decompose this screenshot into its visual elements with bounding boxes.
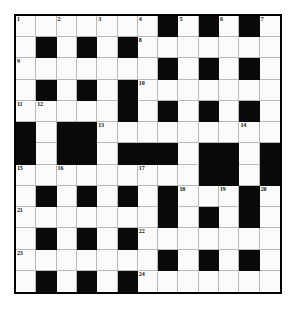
grid-letter-cell[interactable]: 22 <box>138 228 158 249</box>
grid-letter-cell[interactable] <box>178 250 198 271</box>
grid-letter-cell[interactable]: 20 <box>260 186 280 207</box>
grid-letter-cell[interactable] <box>57 271 77 292</box>
grid-letter-cell[interactable]: 18 <box>178 186 198 207</box>
grid-letter-cell[interactable] <box>178 58 198 79</box>
grid-letter-cell[interactable] <box>97 37 117 58</box>
grid-letter-cell[interactable] <box>97 250 117 271</box>
grid-letter-cell[interactable] <box>118 16 138 37</box>
grid-letter-cell[interactable]: 17 <box>138 165 158 186</box>
grid-letter-cell[interactable] <box>77 101 97 122</box>
grid-letter-cell[interactable]: 2 <box>57 16 77 37</box>
grid-letter-cell[interactable] <box>260 250 280 271</box>
grid-letter-cell[interactable] <box>178 80 198 101</box>
grid-letter-cell[interactable] <box>118 122 138 143</box>
grid-letter-cell[interactable] <box>57 58 77 79</box>
grid-letter-cell[interactable] <box>260 228 280 249</box>
grid-letter-cell[interactable] <box>178 228 198 249</box>
grid-letter-cell[interactable] <box>77 58 97 79</box>
grid-letter-cell[interactable]: 19 <box>219 186 239 207</box>
grid-letter-cell[interactable] <box>239 80 259 101</box>
grid-letter-cell[interactable] <box>97 186 117 207</box>
grid-letter-cell[interactable] <box>57 250 77 271</box>
grid-letter-cell[interactable] <box>219 207 239 228</box>
grid-letter-cell[interactable]: 23 <box>16 250 36 271</box>
crossword-grid[interactable]: 123456789101112131415161718192021222324 <box>14 14 282 294</box>
grid-letter-cell[interactable] <box>199 80 219 101</box>
grid-letter-cell[interactable] <box>158 228 178 249</box>
grid-letter-cell[interactable]: 10 <box>138 80 158 101</box>
grid-letter-cell[interactable] <box>239 165 259 186</box>
grid-letter-cell[interactable] <box>158 80 178 101</box>
grid-letter-cell[interactable] <box>36 250 56 271</box>
grid-letter-cell[interactable] <box>158 271 178 292</box>
grid-letter-cell[interactable]: 5 <box>178 16 198 37</box>
grid-letter-cell[interactable] <box>239 143 259 164</box>
grid-letter-cell[interactable] <box>260 37 280 58</box>
grid-letter-cell[interactable] <box>178 143 198 164</box>
grid-letter-cell[interactable] <box>199 122 219 143</box>
grid-letter-cell[interactable] <box>239 271 259 292</box>
grid-letter-cell[interactable] <box>77 165 97 186</box>
grid-letter-cell[interactable]: 8 <box>138 37 158 58</box>
grid-letter-cell[interactable] <box>138 122 158 143</box>
grid-letter-cell[interactable] <box>36 16 56 37</box>
grid-letter-cell[interactable]: 21 <box>16 207 36 228</box>
grid-letter-cell[interactable]: 14 <box>239 122 259 143</box>
grid-letter-cell[interactable] <box>199 271 219 292</box>
grid-letter-cell[interactable]: 9 <box>16 58 36 79</box>
grid-letter-cell[interactable] <box>178 101 198 122</box>
grid-letter-cell[interactable] <box>219 101 239 122</box>
grid-letter-cell[interactable]: 3 <box>97 16 117 37</box>
grid-letter-cell[interactable] <box>77 16 97 37</box>
grid-letter-cell[interactable] <box>260 207 280 228</box>
grid-letter-cell[interactable] <box>178 207 198 228</box>
grid-letter-cell[interactable] <box>97 228 117 249</box>
grid-letter-cell[interactable]: 12 <box>36 101 56 122</box>
grid-letter-cell[interactable]: 24 <box>138 271 158 292</box>
grid-letter-cell[interactable] <box>158 37 178 58</box>
grid-letter-cell[interactable] <box>36 58 56 79</box>
grid-letter-cell[interactable] <box>239 37 259 58</box>
grid-letter-cell[interactable] <box>158 122 178 143</box>
grid-letter-cell[interactable] <box>16 80 36 101</box>
grid-letter-cell[interactable] <box>16 271 36 292</box>
grid-letter-cell[interactable] <box>36 143 56 164</box>
grid-letter-cell[interactable] <box>138 207 158 228</box>
grid-letter-cell[interactable] <box>36 207 56 228</box>
grid-letter-cell[interactable] <box>158 165 178 186</box>
grid-letter-cell[interactable] <box>57 101 77 122</box>
grid-letter-cell[interactable]: 13 <box>97 122 117 143</box>
grid-letter-cell[interactable] <box>260 101 280 122</box>
grid-letter-cell[interactable] <box>97 271 117 292</box>
grid-letter-cell[interactable] <box>57 207 77 228</box>
grid-letter-cell[interactable] <box>199 37 219 58</box>
grid-letter-cell[interactable]: 15 <box>16 165 36 186</box>
grid-letter-cell[interactable]: 16 <box>57 165 77 186</box>
grid-letter-cell[interactable] <box>36 122 56 143</box>
grid-letter-cell[interactable] <box>16 228 36 249</box>
grid-letter-cell[interactable] <box>219 58 239 79</box>
grid-letter-cell[interactable] <box>138 58 158 79</box>
grid-letter-cell[interactable]: 11 <box>16 101 36 122</box>
grid-letter-cell[interactable] <box>199 186 219 207</box>
grid-letter-cell[interactable] <box>260 80 280 101</box>
grid-letter-cell[interactable] <box>57 37 77 58</box>
grid-letter-cell[interactable] <box>97 165 117 186</box>
grid-letter-cell[interactable] <box>97 58 117 79</box>
grid-letter-cell[interactable] <box>178 165 198 186</box>
grid-letter-cell[interactable] <box>36 165 56 186</box>
grid-letter-cell[interactable] <box>118 207 138 228</box>
grid-letter-cell[interactable] <box>57 80 77 101</box>
grid-letter-cell[interactable] <box>16 37 36 58</box>
grid-letter-cell[interactable]: 6 <box>219 16 239 37</box>
grid-letter-cell[interactable] <box>178 271 198 292</box>
grid-letter-cell[interactable] <box>219 250 239 271</box>
grid-letter-cell[interactable] <box>57 228 77 249</box>
grid-letter-cell[interactable] <box>97 101 117 122</box>
grid-letter-cell[interactable] <box>239 228 259 249</box>
grid-letter-cell[interactable] <box>118 165 138 186</box>
grid-letter-cell[interactable] <box>118 250 138 271</box>
grid-letter-cell[interactable] <box>138 186 158 207</box>
grid-letter-cell[interactable] <box>178 122 198 143</box>
grid-letter-cell[interactable] <box>219 80 239 101</box>
